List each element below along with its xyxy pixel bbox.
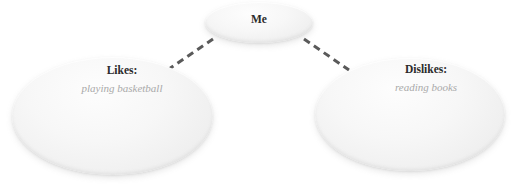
- node-likes-detail: playing basketball: [52, 82, 192, 96]
- node-dislikes-label: Dislikes: reading books: [356, 62, 496, 95]
- node-me-title: Me: [205, 12, 313, 26]
- node-likes-label: Likes: playing basketball: [52, 63, 192, 96]
- node-likes-title: Likes:: [52, 63, 192, 77]
- node-dislikes-title: Dislikes:: [356, 62, 496, 76]
- diagram-canvas: Me Likes: playing basketball Dislikes: r…: [0, 0, 519, 194]
- node-dislikes-detail: reading books: [356, 81, 496, 95]
- node-me-label: Me: [205, 12, 313, 31]
- edge-me-to-dislikes: [304, 39, 349, 70]
